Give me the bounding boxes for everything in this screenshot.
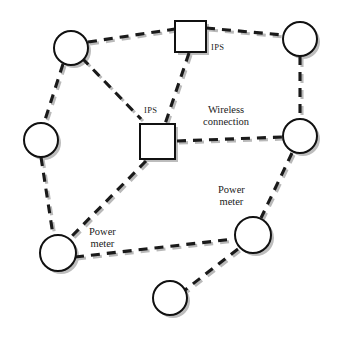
edge-c5-c6[interactable]: [75, 239, 234, 257]
edge-c6-c7[interactable]: [185, 249, 238, 290]
power-meter-node[interactable]: [283, 119, 317, 153]
ips-node[interactable]: [140, 124, 175, 159]
power-meter-node[interactable]: [24, 123, 58, 157]
edge-shadow: [72, 163, 148, 240]
edge-shadow: [84, 60, 143, 121]
power-meter-node[interactable]: [54, 31, 88, 65]
power-meter-node[interactable]: [153, 281, 187, 315]
edge-c1-c3[interactable]: [44, 64, 63, 123]
node-shadow-layer: [27, 24, 320, 318]
edge-shadow: [90, 31, 177, 44]
diagram-canvas: [0, 0, 337, 344]
edge-s2-c5[interactable]: [70, 161, 146, 238]
power-meter-node[interactable]: [235, 217, 271, 253]
ips-node[interactable]: [175, 21, 206, 52]
edge-shadow: [77, 241, 236, 259]
power-meter-node[interactable]: [283, 22, 317, 56]
edge-shadow: [263, 155, 294, 220]
edge-c1-s1[interactable]: [88, 29, 175, 42]
network-diagram: IPS IPS Wireless connection Power meter …: [0, 0, 337, 344]
edge-shadow: [187, 251, 240, 292]
edge-shadow: [46, 66, 65, 125]
edge-shadow: [43, 159, 55, 237]
power-meter-node[interactable]: [40, 235, 76, 271]
edge-s1-s2[interactable]: [165, 53, 189, 124]
edge-c4-c6[interactable]: [261, 153, 292, 218]
edge-c3-c5[interactable]: [41, 157, 53, 235]
edge-shadow: [167, 55, 191, 126]
